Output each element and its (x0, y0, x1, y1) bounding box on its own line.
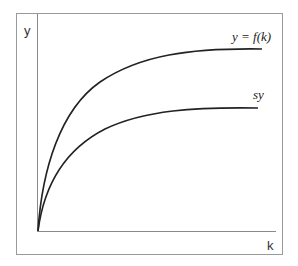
solow-diagram: y k y = f(k) sy (0, 0, 298, 266)
x-axis-label: k (267, 238, 274, 253)
saving-curve-label: sy (253, 87, 264, 102)
y-axis-label: y (24, 23, 31, 38)
saving-curve (38, 108, 258, 231)
production-curve (38, 49, 262, 231)
production-curve-label: y = f(k) (230, 29, 271, 44)
